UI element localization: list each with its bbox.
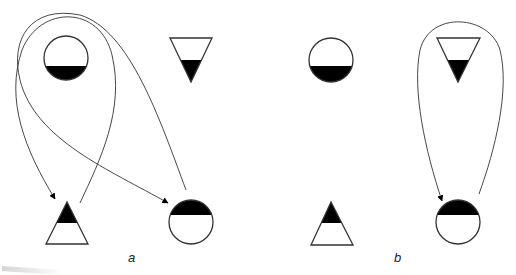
triangle-down-symbol: [437, 38, 480, 82]
circle-symbol: [44, 36, 88, 80]
panel-label-b: b: [394, 250, 401, 265]
triangle-up-symbol: [46, 202, 88, 244]
panel-label-a: a: [128, 250, 135, 265]
pedigree-diagram: [0, 0, 516, 275]
symbols-layer: [44, 36, 480, 245]
transmission-arrow: [16, 17, 116, 203]
circle-symbol: [436, 200, 480, 244]
triangle-up-symbol: [311, 202, 353, 245]
arrows-layer: [16, 13, 503, 203]
transmission-arrow: [418, 22, 504, 201]
transmission-arrow: [18, 13, 187, 203]
circle-symbol: [169, 200, 213, 244]
circle-symbol: [309, 38, 353, 82]
triangle-down-symbol: [170, 38, 212, 82]
